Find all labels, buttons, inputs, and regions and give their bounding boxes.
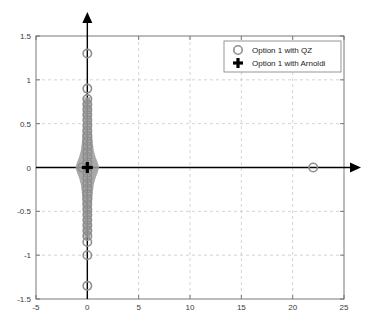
y-tick-label: 1.5 bbox=[20, 32, 32, 41]
up-arrow-icon bbox=[82, 12, 92, 23]
legend-label-qz: Option 1 with QZ bbox=[252, 46, 312, 55]
x-tick-label: 15 bbox=[237, 303, 246, 312]
y-tick-label: -1.5 bbox=[17, 295, 31, 304]
x-tick-label: 20 bbox=[288, 303, 297, 312]
x-tick-label: 10 bbox=[186, 303, 195, 312]
y-tick-label: -0.5 bbox=[17, 207, 31, 216]
legend: Option 1 with QZ Option 1 with Arnoldi bbox=[224, 41, 341, 72]
figure-canvas: -50510152025 -1.5-1-0.500.511.5 Option 1… bbox=[0, 0, 370, 331]
x-tick-label: -5 bbox=[32, 303, 40, 312]
y-tick-label: -1 bbox=[24, 251, 32, 260]
right-arrow-icon bbox=[350, 163, 361, 173]
x-tick-label: 5 bbox=[136, 303, 141, 312]
y-tick-label: 0 bbox=[27, 164, 32, 173]
x-axis-tick-labels: -50510152025 bbox=[32, 303, 349, 312]
legend-label-arnoldi: Option 1 with Arnoldi bbox=[252, 59, 326, 68]
y-axis-tick-labels: -1.5-1-0.500.511.5 bbox=[17, 32, 31, 304]
x-tick-label: 25 bbox=[340, 303, 349, 312]
y-tick-label: 1 bbox=[27, 76, 32, 85]
y-tick-label: 0.5 bbox=[20, 120, 32, 129]
x-tick-label: 0 bbox=[85, 303, 90, 312]
scatter-plot: -50510152025 -1.5-1-0.500.511.5 Option 1… bbox=[0, 0, 370, 331]
qz-series-markers bbox=[78, 49, 317, 290]
